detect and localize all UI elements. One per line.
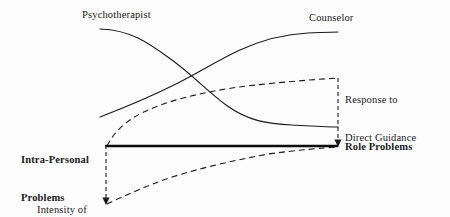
- curve-response-to-direct-guidance: [107, 78, 338, 146]
- figure-root: Psychotherapist Counselor Response to Di…: [0, 0, 450, 217]
- label-response-to-direct-guidance: Response to Direct Guidance: [345, 69, 416, 169]
- curve-counselor: [100, 32, 338, 117]
- label-psychotherapist: Psychotherapist: [82, 9, 151, 22]
- label-intra-line-1: Intra-Personal: [21, 154, 89, 167]
- label-counselor: Counselor: [309, 12, 354, 25]
- curve-intensity-of-disturbance: [107, 147, 338, 204]
- label-intensity-line-1: Intensity of: [37, 204, 89, 217]
- label-intensity-of-disturbance: Intensity of Disturbance: [37, 179, 89, 217]
- label-role-problems: Role Problems: [345, 141, 412, 154]
- curve-psychotherapist: [100, 29, 338, 127]
- label-response-line-1: Response to: [345, 94, 416, 107]
